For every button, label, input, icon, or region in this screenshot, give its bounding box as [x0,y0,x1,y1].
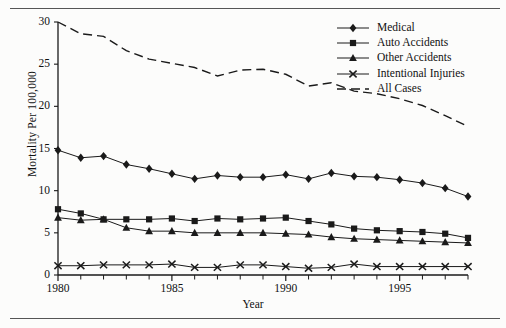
data-point-marker [396,176,403,184]
legend-key-none-icon [336,81,370,96]
legend-item-medical: Medical [336,20,465,35]
legend-label: Intentional Injuries [377,66,465,81]
legend-label: Auto Accidents [377,35,448,50]
data-point-marker [123,160,130,168]
data-point-marker [305,218,311,224]
data-point-marker [78,210,84,216]
data-point-marker [373,173,380,181]
legend-label: Medical [377,20,415,35]
data-point-marker [168,170,175,178]
data-point-marker [214,171,221,179]
data-point-marker [146,216,152,222]
legend-item-all-cases: All Cases [336,81,465,96]
x-tick-label: 1980 [36,283,80,295]
data-point-marker [260,215,266,221]
mortality-line-chart: Mortality Per 100,000 Year 051015202530 … [0,0,506,328]
data-point-marker [214,215,220,221]
legend-label: Other Accidents [377,50,451,65]
legend-item-other-accidents: Other Accidents [336,50,465,65]
data-point-marker [55,206,61,212]
legend-item-intentional-injuries: Intentional Injuries [336,66,465,81]
y-tick-label: 10 [24,185,50,197]
data-point-marker [192,218,198,224]
data-point-marker [191,175,198,183]
data-point-marker [374,227,380,233]
data-point-marker [282,170,289,178]
data-point-marker [328,221,334,227]
chart-legend: MedicalAuto AccidentsOther AccidentsInte… [336,20,465,96]
y-tick-label: 25 [24,58,50,70]
data-point-marker [237,173,244,181]
series-intentional-injuries [54,261,471,272]
data-point-marker [351,226,357,232]
data-point-marker [55,146,62,154]
legend-item-auto-accidents: Auto Accidents [336,35,465,50]
data-point-marker [419,229,425,235]
data-point-marker [328,169,335,177]
x-tick-label: 1995 [378,283,422,295]
x-tick-label: 1985 [150,283,194,295]
y-tick-label: 20 [24,100,50,112]
data-point-marker [260,173,267,181]
data-point-marker [350,24,357,32]
data-point-marker [350,40,356,46]
x-tick-label: 1990 [264,283,308,295]
y-tick-label: 30 [24,16,50,28]
y-tick-label: 15 [24,143,50,155]
data-point-marker [54,214,62,221]
legend-key-cross-icon [336,66,370,81]
data-point-marker [169,215,175,221]
data-point-marker [419,179,426,187]
data-point-marker [305,175,312,183]
y-tick-label: 5 [24,227,50,239]
data-point-marker [397,228,403,234]
data-point-marker [100,152,107,160]
data-point-marker [351,172,358,180]
data-point-marker [465,192,472,200]
data-point-marker [77,154,84,162]
y-tick-label: 0 [24,269,50,281]
x-axis-title: Year [0,298,506,310]
series-medical [55,146,472,201]
legend-key-square-icon [336,35,370,50]
legend-key-diamond-icon [336,20,370,35]
legend-key-triangle-icon [336,50,370,65]
data-point-marker [237,216,243,222]
legend-label: All Cases [377,81,421,96]
data-point-marker [442,184,449,192]
data-point-marker [442,231,448,237]
data-point-marker [123,216,129,222]
data-point-marker [146,165,153,173]
data-point-marker [283,215,289,221]
